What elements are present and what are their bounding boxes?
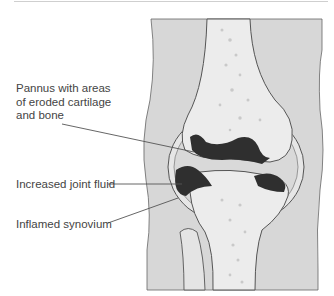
label-pannus: Pannus with areas of eroded cartilage an… <box>16 82 116 123</box>
label-joint-fluid: Increased joint fluid <box>16 178 115 192</box>
label-inflamed-synovium: Inflamed synovium <box>16 218 112 232</box>
knee-joint-illustration <box>0 0 334 296</box>
